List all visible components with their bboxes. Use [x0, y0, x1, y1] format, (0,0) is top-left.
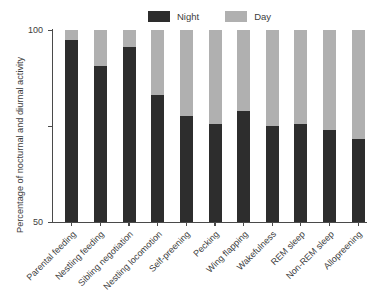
legend-label: Day	[254, 11, 271, 22]
x-tick-mark	[214, 222, 215, 226]
bar-group[interactable]	[65, 30, 78, 222]
x-tick-mark	[358, 222, 359, 226]
x-tick-mark	[128, 222, 129, 226]
y-tick-mark: 0	[48, 222, 52, 223]
x-tick-mark	[300, 222, 301, 226]
bar-segment-night[interactable]	[65, 40, 78, 222]
y-tick-mark: 100	[48, 30, 52, 31]
legend-swatch-night	[148, 11, 170, 22]
x-tick-mark	[71, 222, 72, 226]
bar-segment-day[interactable]	[237, 30, 250, 111]
legend-entry-night[interactable]: Night	[148, 11, 199, 22]
bar-segment-day[interactable]	[294, 30, 307, 124]
bar-segment-night[interactable]	[237, 111, 250, 222]
bar-segment-day[interactable]	[151, 30, 164, 95]
x-tick-mark	[157, 222, 158, 226]
y-axis-line	[52, 29, 53, 223]
bar-segment-day[interactable]	[94, 30, 107, 66]
bar-segment-day[interactable]	[180, 30, 193, 116]
bar-group[interactable]	[323, 30, 336, 222]
chart-figure: NightDay Percentage of nocturnal and diu…	[0, 0, 377, 307]
plot-area: 050100	[52, 30, 367, 222]
bar-group[interactable]	[352, 30, 365, 222]
x-tick-mark	[329, 222, 330, 226]
bar-group[interactable]	[266, 30, 279, 222]
bar-segment-day[interactable]	[123, 30, 136, 47]
y-tick-mark: 50	[48, 126, 52, 127]
bar-segment-day[interactable]	[266, 30, 279, 126]
y-tick-label: 50	[33, 218, 43, 227]
x-tick-label-text: Parental feeding	[24, 229, 77, 282]
bar-group[interactable]	[237, 30, 250, 222]
y-tick-label: 100	[28, 26, 43, 35]
legend-entry-day[interactable]: Day	[225, 11, 271, 22]
bar-segment-day[interactable]	[209, 30, 222, 124]
bar-segment-day[interactable]	[323, 30, 336, 130]
bar-segment-day[interactable]	[352, 30, 365, 139]
legend-label: Night	[177, 11, 199, 22]
legend-swatch-day	[225, 11, 247, 22]
chart-legend: NightDay	[148, 9, 271, 23]
bar-segment-day[interactable]	[65, 30, 78, 40]
y-axis-title: Percentage of nocturnal and diurnal acti…	[13, 3, 27, 233]
x-tick-mark	[243, 222, 244, 226]
